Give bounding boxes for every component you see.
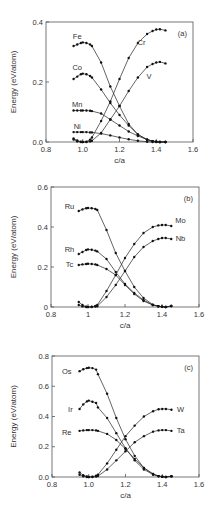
data-point	[95, 368, 97, 370]
data-point	[133, 243, 135, 245]
series-label: Re	[62, 428, 72, 437]
data-point	[157, 475, 159, 477]
data-point	[164, 141, 166, 143]
data-point	[152, 410, 154, 412]
data-point	[96, 264, 98, 266]
data-point	[87, 263, 89, 265]
data-point	[91, 140, 93, 142]
data-point	[124, 270, 126, 272]
x-axis-label: c/a	[120, 491, 131, 500]
data-point	[165, 429, 167, 431]
data-point	[161, 306, 163, 308]
data-point	[118, 124, 120, 126]
data-point	[100, 132, 102, 134]
data-point	[133, 424, 135, 426]
data-point	[88, 476, 90, 478]
data-point	[100, 112, 102, 114]
data-point	[85, 109, 87, 111]
data-point	[105, 290, 107, 292]
data-point	[87, 207, 89, 209]
data-point	[105, 268, 107, 270]
data-point	[157, 224, 159, 226]
data-point	[81, 305, 83, 307]
data-point	[143, 435, 145, 437]
data-point	[146, 141, 148, 143]
data-point	[72, 45, 74, 47]
data-point	[155, 28, 157, 30]
data-point	[91, 476, 93, 478]
data-point	[109, 100, 111, 102]
y-axis-label: Energy (eV/atom)	[9, 385, 18, 448]
series-line	[80, 368, 172, 477]
data-point	[91, 306, 93, 308]
data-point	[133, 293, 135, 295]
data-point	[118, 114, 120, 116]
data-point	[118, 136, 120, 138]
series-rh: Rh	[65, 245, 173, 308]
data-point	[152, 473, 154, 475]
data-point	[170, 430, 172, 432]
data-point	[87, 306, 89, 308]
panel-label: (a)	[178, 29, 188, 38]
data-point	[115, 459, 117, 461]
data-point	[133, 286, 135, 288]
series-ta: Ta	[78, 426, 185, 478]
x-tick-label: 1	[86, 310, 90, 319]
data-point	[96, 250, 98, 252]
data-point	[88, 429, 90, 431]
data-point	[133, 441, 135, 443]
data-point	[133, 455, 135, 457]
data-point	[152, 240, 154, 242]
data-point	[170, 475, 172, 477]
data-point	[170, 225, 172, 227]
series-label: Tc	[66, 260, 74, 269]
data-point	[118, 78, 120, 80]
data-point	[82, 368, 84, 370]
data-point	[106, 417, 108, 419]
series-label: Cr	[138, 38, 146, 47]
data-point	[96, 209, 98, 211]
series-nb: Nb	[78, 234, 186, 308]
data-point	[151, 141, 153, 143]
data-point	[133, 458, 135, 460]
series-line	[74, 42, 166, 142]
data-point	[76, 43, 78, 45]
series-tc: Tc	[66, 260, 173, 308]
data-point	[124, 438, 126, 440]
x-axis-label: c/a	[114, 156, 125, 165]
panel-c: 0.81.01.21.41.60.00.20.40.60.8c/aEnergy …	[9, 352, 204, 501]
series-label: Fe	[73, 32, 82, 41]
series-label: W	[177, 405, 185, 414]
series-label: Rh	[65, 245, 75, 254]
data-point	[72, 131, 74, 133]
data-point	[146, 66, 148, 68]
data-point	[161, 429, 163, 431]
data-point	[170, 408, 172, 410]
panel-a: 0.81.01.21.41.60.00.20.4c/aEnergy (eV/at…	[9, 18, 198, 166]
data-point	[155, 141, 157, 143]
data-point	[155, 61, 157, 63]
data-point	[76, 131, 78, 133]
series-ir: Ir	[68, 399, 173, 478]
data-point	[124, 450, 126, 452]
data-point	[106, 433, 108, 435]
data-point	[76, 140, 78, 142]
data-point	[115, 439, 117, 441]
data-point	[81, 251, 83, 253]
data-point	[127, 138, 129, 140]
data-point	[127, 57, 129, 59]
data-point	[161, 408, 163, 410]
y-tick-label: 0.0	[33, 138, 43, 147]
data-point	[127, 124, 129, 126]
x-tick-label: 1.6	[188, 145, 198, 154]
data-point	[81, 263, 83, 265]
data-point	[72, 138, 74, 140]
data-point	[118, 105, 120, 107]
data-point	[85, 73, 87, 75]
y-tick-label: 0	[44, 303, 48, 312]
y-tick-label: 0.4	[33, 18, 43, 27]
y-tick-label: 0.2	[33, 78, 43, 87]
data-point	[97, 430, 99, 432]
data-point	[97, 475, 99, 477]
data-point	[91, 110, 93, 112]
